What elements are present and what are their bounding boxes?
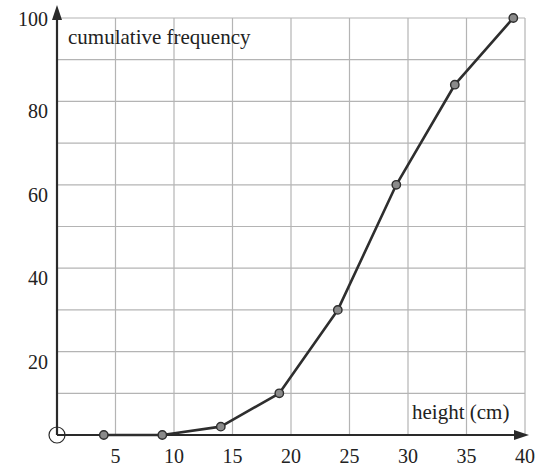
chart-canvas: 51015202530354020406080100 cumulative fr… [0,0,545,473]
y-tick-label: 60 [28,184,48,206]
x-tick-label: 20 [281,445,301,467]
x-tick-label: 35 [457,445,477,467]
x-tick-label: 40 [515,445,535,467]
x-tick-label: 5 [111,445,121,467]
y-tick-label: 80 [28,100,48,122]
tick-labels: 51015202530354020406080100 [18,8,535,467]
data-point-marker [100,431,108,439]
x-tick-label: 10 [164,445,184,467]
data-point-marker [158,431,166,439]
y-tick-label: 20 [28,351,48,373]
x-tick-label: 30 [398,445,418,467]
y-tick-label: 40 [28,267,48,289]
cumulative-frequency-chart: 51015202530354020406080100 cumulative fr… [0,0,545,473]
data-point-marker [217,422,225,430]
data-point-marker [451,81,459,89]
data-point-marker [334,306,342,314]
y-axis-arrow-icon [52,5,62,20]
y-tick-label: 100 [18,8,48,30]
data-point-marker [275,389,283,397]
data-point-marker [392,181,400,189]
x-axis-label: height (cm) [412,400,509,424]
y-axis-label: cumulative frequency [68,25,251,49]
x-tick-label: 15 [223,445,243,467]
x-tick-label: 25 [340,445,360,467]
data-point-marker [509,14,517,22]
axis-labels: cumulative frequency height (cm) [68,25,509,424]
x-axis-arrow-icon [514,430,529,440]
